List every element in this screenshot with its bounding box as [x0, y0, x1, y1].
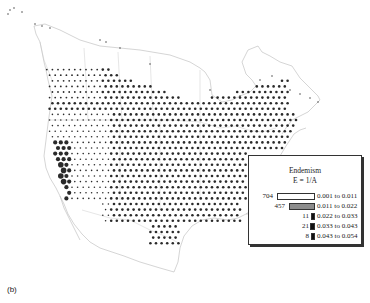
- grid-cell-dot: [94, 175, 96, 177]
- grid-cell-dot: [250, 108, 253, 111]
- grid-cell-dot: [121, 96, 124, 99]
- grid-cell-dot: [158, 169, 161, 172]
- legend-bar: [311, 233, 315, 240]
- grid-cell-dot: [82, 130, 84, 132]
- grid-cell-dot: [194, 175, 197, 178]
- grid-cell-dot: [99, 153, 101, 155]
- grid-cell-dot: [286, 124, 289, 127]
- grid-cell-dot: [66, 119, 68, 121]
- grid-cell-dot: [160, 96, 163, 99]
- grid-cell-dot: [177, 96, 180, 99]
- grid-cell-dot: [219, 158, 222, 161]
- grid-cell-dot: [222, 175, 225, 178]
- grid-cell-dot: [149, 231, 152, 234]
- grid-cell-dot: [247, 91, 250, 94]
- grid-cell-dot: [222, 208, 225, 211]
- grid-cell-dot: [239, 186, 242, 189]
- grid-cell-dot: [261, 108, 264, 111]
- grid-cell-dot: [62, 102, 65, 105]
- grid-cell-dot: [163, 169, 166, 172]
- grid-cell-dot: [239, 208, 242, 211]
- grid-cell-dot: [110, 164, 113, 167]
- grid-cell-dot: [146, 169, 149, 172]
- grid-cell-dot: [228, 152, 231, 155]
- grid-cell-dot: [155, 208, 158, 211]
- grid-cell-dot: [102, 102, 105, 105]
- grid-cell-dot: [116, 108, 119, 111]
- endemism-legend: Endemism E = 1/A 704 0.001 to 0.011 457 …: [248, 155, 362, 245]
- grid-cell-dot: [110, 119, 113, 122]
- grid-cell-dot: [88, 130, 90, 132]
- grid-cell-dot: [191, 147, 194, 150]
- grid-cell-dot: [174, 236, 177, 239]
- legend-row: 457 0.011 to 0.022: [249, 202, 361, 211]
- grid-cell-dot: [163, 102, 166, 105]
- grid-cell-dot: [233, 175, 236, 178]
- grid-cell-dot: [177, 108, 180, 111]
- grid-cell-dot: [244, 108, 247, 111]
- grid-cell-dot: [160, 119, 163, 122]
- grid-cell-dot: [121, 164, 124, 167]
- grid-cell-dot: [281, 91, 284, 94]
- grid-cell-dot: [160, 141, 163, 144]
- grid-cell-dot: [299, 93, 300, 94]
- grid-cell-dot: [49, 27, 50, 28]
- grid-cell-dot: [68, 114, 70, 116]
- grid-cell-dot: [172, 197, 175, 200]
- grid-cell-dot: [166, 119, 169, 122]
- grid-cell-dot: [124, 102, 127, 105]
- grid-cell-dot: [250, 130, 253, 133]
- grid-cell-dot: [105, 41, 106, 42]
- grid-cell-dot: [94, 86, 96, 88]
- grid-cell-dot: [169, 136, 172, 139]
- grid-cell-dot: [130, 80, 133, 83]
- grid-cell-dot: [286, 91, 289, 94]
- grid-cell-dot: [228, 164, 231, 167]
- grid-cell-dot: [172, 220, 175, 223]
- grid-cell-dot: [124, 124, 127, 127]
- grid-cell-dot: [88, 186, 90, 188]
- grid-cell-dot: [289, 89, 290, 90]
- grid-cell-dot: [91, 80, 93, 82]
- grid-cell-dot: [64, 163, 68, 167]
- grid-cell-dot: [149, 197, 152, 200]
- grid-cell-dot: [180, 180, 183, 183]
- grid-cell-dot: [166, 152, 169, 155]
- grid-cell-dot: [275, 147, 278, 150]
- grid-cell-dot: [202, 147, 205, 150]
- grid-cell-dot: [146, 102, 149, 105]
- grid-cell-dot: [278, 130, 281, 133]
- grid-cell-dot: [275, 124, 278, 127]
- grid-cell-dot: [233, 108, 236, 111]
- grid-cell-dot: [152, 225, 155, 228]
- grid-cell-dot: [63, 125, 65, 127]
- grid-cell-dot: [67, 146, 71, 150]
- grid-cell-dot: [261, 85, 264, 88]
- grid-cell-dot: [80, 125, 82, 127]
- grid-cell-dot: [255, 108, 258, 111]
- grid-cell-dot: [68, 102, 71, 105]
- grid-cell-dot: [208, 102, 211, 105]
- grid-cell-dot: [309, 97, 310, 98]
- grid-cell-dot: [222, 186, 225, 189]
- grid-cell-dot: [110, 197, 113, 200]
- grid-cell-dot: [183, 108, 186, 111]
- grid-cell-dot: [94, 198, 96, 200]
- grid-cell-dot: [88, 86, 90, 88]
- grid-cell-dot: [74, 69, 76, 71]
- grid-cell-dot: [146, 136, 149, 139]
- grid-cell-dot: [144, 152, 147, 155]
- grid-cell-dot: [194, 164, 197, 167]
- grid-cell-dot: [211, 130, 214, 133]
- grid-cell-dot: [188, 197, 191, 200]
- grid-cell-dot: [71, 186, 73, 188]
- grid-cell-dot: [236, 124, 239, 127]
- grid-cell-dot: [158, 124, 161, 127]
- grid-cell-dot: [108, 214, 110, 216]
- grid-cell-dot: [242, 147, 245, 150]
- grid-cell-dot: [91, 170, 93, 172]
- grid-cell-dot: [202, 158, 205, 161]
- grid-cell-dot: [124, 180, 127, 183]
- grid-cell-dot: [177, 164, 180, 167]
- grid-cell-dot: [152, 136, 155, 139]
